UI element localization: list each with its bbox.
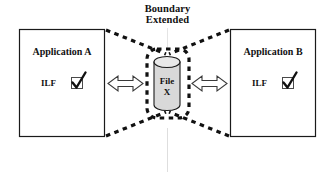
cylinder-top-ellipse: [154, 57, 180, 68]
application-b-title: Application B: [230, 47, 316, 58]
boundary-extended-diagram: Boundary Extended Application A Applicat…: [0, 0, 335, 174]
boundary-line-2: Extended: [0, 14, 335, 25]
boundary-dash-lower-left: [106, 112, 166, 136]
application-a-title: Application A: [19, 47, 105, 58]
file-label-line-1: File: [147, 76, 187, 87]
file-label-line-2: X: [147, 87, 187, 98]
left-double-arrow-icon: [108, 76, 143, 91]
boundary-dash-lower-right: [169, 112, 229, 136]
boundary-extended-label: Boundary Extended: [0, 3, 335, 25]
ilf-label-b: ILF: [252, 79, 267, 88]
boundary-line-1: Boundary: [0, 3, 335, 14]
right-double-arrow-icon: [192, 76, 227, 91]
ilf-label-a: ILF: [41, 79, 56, 88]
file-x-label: File X: [147, 76, 187, 99]
